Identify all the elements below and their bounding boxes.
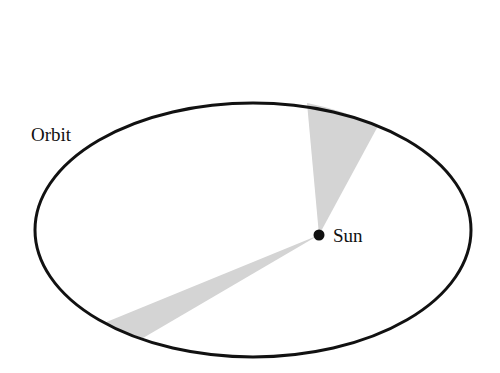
orbit-diagram: Orbit Sun [0,0,500,373]
orbit-ellipse [35,103,471,357]
sun-label: Sun [333,225,363,246]
sun-dot [314,230,325,241]
orbit-label: Orbit [31,124,72,145]
swept-area-wedge-bottom [104,235,319,338]
